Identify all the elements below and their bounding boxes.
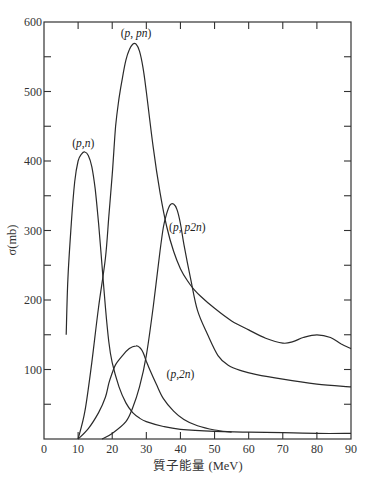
x-tick-label: 0 <box>41 442 47 456</box>
curve-p-2n <box>78 346 232 439</box>
y-tick-label: 100 <box>24 363 42 377</box>
x-tick-label: 70 <box>277 442 289 456</box>
x-tick-label: 40 <box>174 442 186 456</box>
y-axis-title: σ(mb) <box>5 224 19 255</box>
x-tick-label: 60 <box>243 442 255 456</box>
x-axis-title: 質子能量 (MeV) <box>153 458 242 473</box>
curve-p-p2n <box>102 204 351 439</box>
curve-labels: (p,n)(p, pn)(p, p2n)(p,2n) <box>72 27 205 381</box>
x-tick-label: 90 <box>345 442 357 456</box>
y-tick-label: 600 <box>24 15 42 29</box>
x-tick-label: 50 <box>209 442 221 456</box>
curve-label-p-p2n: (p, p2n) <box>169 221 206 234</box>
cross-section-chart: 0102030405060708090100200300400500600 (p… <box>0 0 372 480</box>
y-tick-label: 500 <box>24 85 42 99</box>
y-tick-label: 400 <box>24 154 42 168</box>
curve-p-n <box>66 152 351 434</box>
y-tick-label: 200 <box>24 293 42 307</box>
curve-p-pn <box>78 43 351 439</box>
x-tick-label: 10 <box>72 442 84 456</box>
curve-label-p-pn: (p, pn) <box>121 27 152 40</box>
y-tick-label: 300 <box>24 224 42 238</box>
axis-tick-labels: 0102030405060708090100200300400500600 <box>24 15 357 456</box>
curve-label-p-2n: (p,2n) <box>167 368 195 381</box>
reaction-curves <box>66 43 351 439</box>
x-tick-label: 80 <box>311 442 323 456</box>
curve-label-p-n: (p,n) <box>72 137 94 150</box>
x-tick-label: 30 <box>140 442 152 456</box>
x-tick-label: 20 <box>106 442 118 456</box>
